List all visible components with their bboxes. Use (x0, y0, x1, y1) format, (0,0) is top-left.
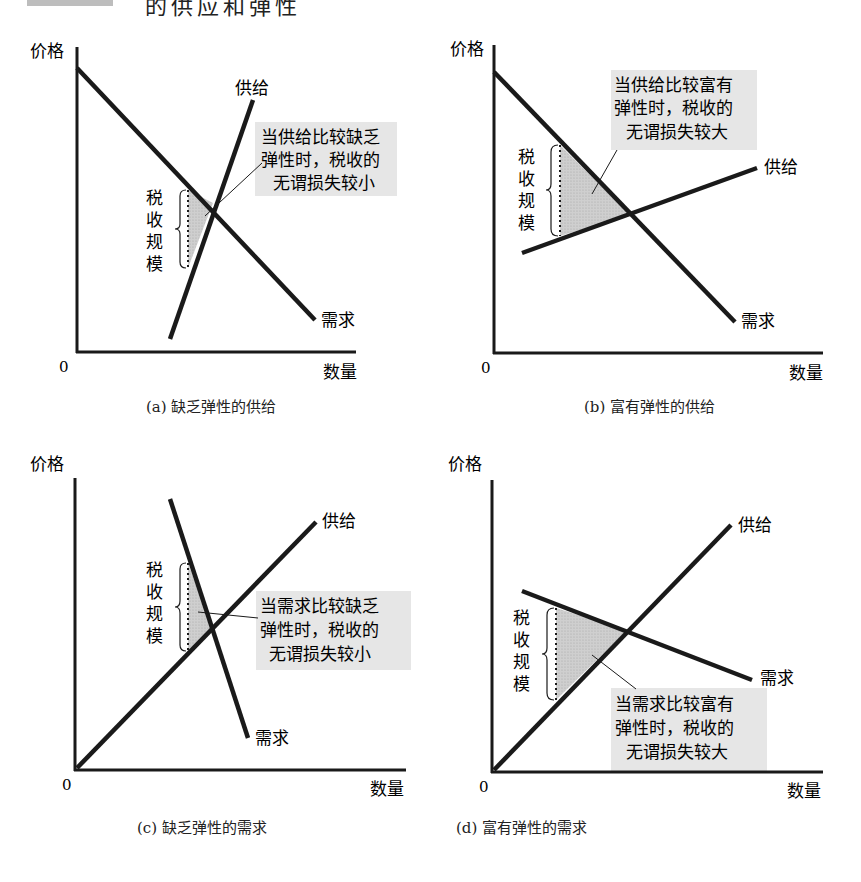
supply-curve (522, 168, 757, 253)
y-axis-label: 价格 (30, 41, 64, 61)
tax-label-2: 收 (146, 582, 163, 602)
x-axis-label: 数量 (370, 779, 404, 799)
supply-label: 供给 (764, 157, 798, 177)
supply-curve (170, 100, 253, 339)
x-axis-label: 数量 (787, 781, 821, 801)
annotation-line-3: 无谓损失较小 (273, 173, 375, 193)
caption-c: (c) 缺乏弹性的需求 (137, 816, 267, 837)
annotation-line-2: 弹性时，税收的 (261, 150, 380, 170)
tax-label-3: 规 (518, 191, 535, 211)
deadweight-loss-area (556, 608, 627, 700)
tax-label-4: 模 (518, 213, 535, 233)
deadweight-loss-area (560, 145, 630, 236)
origin-label: 0 (479, 778, 489, 796)
caption-a: (a) 缺乏弹性的供给 (146, 395, 276, 416)
brace-icon (542, 608, 554, 700)
charts-canvas: 价格 数量 0 供给 需求 税 收 规 模 当供给比较缺乏 弹性时，税收的 无谓… (0, 0, 861, 882)
tax-label-4: 模 (513, 674, 530, 694)
tax-label-4: 模 (146, 626, 163, 646)
supply-label: 供给 (235, 78, 269, 98)
tax-label-2: 收 (146, 210, 163, 230)
annotation-line-3: 无谓损失较小 (269, 644, 371, 664)
origin-label: 0 (481, 359, 491, 377)
tax-label-3: 规 (513, 652, 530, 672)
tax-label-1: 税 (513, 608, 530, 628)
annotation-line-1: 当供给比较缺乏 (261, 127, 380, 147)
annotation-line-2: 弹性时，税收的 (614, 98, 733, 118)
tax-label-1: 税 (146, 188, 163, 208)
tax-label-3: 规 (146, 604, 163, 624)
brace-icon (546, 145, 558, 236)
supply-label: 供给 (738, 515, 772, 535)
y-axis-label: 价格 (450, 39, 484, 59)
panel-b: 价格 数量 0 供给 需求 税 收 规 模 当供给比较富有 弹性时，税收的 无谓… (450, 39, 823, 383)
annotation-line-3: 无谓损失较大 (626, 742, 728, 762)
demand-label: 需求 (321, 310, 355, 330)
demand-label: 需求 (760, 668, 794, 688)
tax-label-4: 模 (146, 254, 163, 274)
annotation-line-2: 弹性时，税收的 (260, 620, 379, 640)
origin-label: 0 (62, 776, 72, 794)
annotation-line-2: 弹性时，税收的 (615, 718, 734, 738)
tax-label-2: 收 (518, 169, 535, 189)
y-axis-label: 价格 (30, 454, 64, 474)
brace-icon (175, 190, 186, 268)
figure: 的供应和弹性 价格 数量 0 供给 需求 税 收 规 (0, 0, 861, 882)
tax-label-3: 规 (146, 232, 163, 252)
x-axis-label: 数量 (323, 362, 357, 382)
origin-label: 0 (59, 358, 69, 376)
brace-icon (175, 563, 186, 651)
annotation-line-1: 当需求比较富有 (615, 694, 734, 714)
panel-a: 价格 数量 0 供给 需求 税 收 规 模 当供给比较缺乏 弹性时，税收的 无谓… (30, 41, 397, 382)
tax-label-2: 收 (513, 630, 530, 650)
demand-label: 需求 (741, 311, 775, 331)
panel-c: 价格 数量 0 供给 需求 税 收 规 模 当需求比较缺乏 弹性时，税收的 无谓… (30, 454, 411, 799)
supply-label: 供给 (322, 511, 356, 531)
deadweight-loss-area (188, 563, 212, 651)
y-axis-label: 价格 (448, 454, 482, 474)
panel-d: 价格 数量 0 供给 需求 税 收 规 模 当需求比较富有 弹性时，税收的 无谓… (448, 454, 823, 801)
caption-b: (b) 富有弹性的供给 (584, 395, 715, 416)
annotation-line-3: 无谓损失较大 (626, 122, 728, 142)
tax-label-1: 税 (518, 147, 535, 167)
x-axis-label: 数量 (789, 363, 823, 383)
annotation-line-1: 当供给比较富有 (614, 75, 733, 95)
caption-d: (d) 富有弹性的需求 (456, 816, 587, 837)
tax-label-1: 税 (146, 560, 163, 580)
demand-curve (170, 499, 248, 738)
annotation-line-1: 当需求比较缺乏 (260, 596, 379, 616)
demand-label: 需求 (255, 728, 289, 748)
